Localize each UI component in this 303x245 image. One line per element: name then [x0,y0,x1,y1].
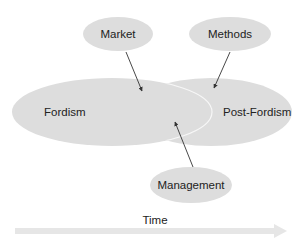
management-label: Management [157,179,225,191]
diagram-svg: Fordism Post-Fordism Market Methods Mana… [0,0,303,245]
market-label: Market [100,28,136,40]
diagram-canvas: Fordism Post-Fordism Market Methods Mana… [0,0,303,245]
methods-label: Methods [208,28,252,40]
post-fordism-label: Post-Fordism [223,106,291,118]
time-label: Time [142,214,167,226]
time-arrow [15,224,287,238]
fordism-label: Fordism [44,106,86,118]
